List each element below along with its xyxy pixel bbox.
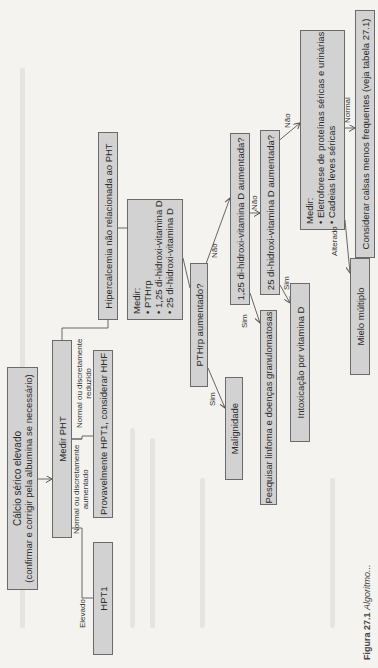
myeloma-label: Mielo múltiplo [355, 287, 366, 345]
consider-other-causes-node: Considerar calsas menos frequentes (veja… [355, 10, 375, 258]
d25-question-label: 25 di-hidroxi-vitamina D aumentada? [265, 135, 276, 290]
probable-hpt1-node: Provavelmente HPT1, considerar HHF [93, 350, 113, 518]
edge-label-normal: Normal [343, 97, 352, 123]
edge-label-pthrp-no: Não [210, 243, 219, 258]
edge-label-normal-high: Normal ou discretamente aumentado [72, 445, 90, 534]
edge-label-elevated: Elevado [78, 599, 87, 628]
lymphoma-node: Pesquisar linfoma e doenças granulomatos… [260, 310, 277, 505]
probable-hpt1-label: Provavelmente HPT1, considerar HHF [98, 353, 109, 515]
malignancy-node: Malignidade [225, 377, 243, 480]
edge-label-line: Normal ou discretamente [72, 445, 81, 534]
d125-question-label: 1,25 di-hidroxi-vitamina D aumentada? [235, 137, 246, 300]
measure-pthrp-node: Medir: PTHrp 1,25 di-hidroxi-vitamina D … [127, 199, 183, 320]
start-title: Cálcio sérico elevado [12, 431, 23, 526]
hpt1-node: HPT1 [93, 542, 113, 655]
edge-label-normal-low: Normal ou discretamente reduzido [75, 339, 93, 428]
edge-label-d125-no: Não [250, 195, 259, 210]
edge-label-altered: Alterado [330, 226, 339, 256]
vitd-intoxication-node: Intoxicação por vitamina D [290, 283, 310, 442]
vitd-intoxication-label: Intoxicação por vitamina D [295, 307, 306, 419]
edge-label-pthrp-yes: Sim [208, 392, 217, 406]
pthrp-question-label: PTHrp aumentado? [194, 284, 205, 367]
measure-pthrp-title: Medir: [131, 288, 142, 314]
list-item: Cadeias leves séricas [326, 32, 337, 224]
figure-label: Figura 27.1 [362, 612, 372, 660]
list-item: Eletroforese de proteínas séricas e urin… [315, 32, 326, 224]
measure-electro-list: Eletroforese de proteínas séricas e urin… [315, 32, 337, 224]
measure-electrophoresis-node: Medir: Eletroforese de proteínas séricas… [300, 30, 345, 230]
edge-label-d25-no: Não [283, 113, 292, 128]
malignancy-label: Malignidade [229, 403, 240, 454]
edge-label-line: reduzido [84, 339, 93, 428]
list-item: PTHrp [142, 200, 153, 314]
edge-label-d25-yes: Sim [282, 276, 291, 290]
measure-pht-node: Medir PHT [52, 340, 72, 538]
myeloma-node: Mielo múltiplo [350, 258, 370, 375]
start-subtitle: (confirmar e corrigir pela albumina se n… [23, 374, 34, 583]
d25-question-node: 25 di-hidroxi-vitamina D aumentada? [260, 130, 280, 295]
measure-pht-label: Medir PHT [57, 416, 68, 461]
measure-pthrp-list: PTHrp 1,25 di-hidroxi-vitamina D 25 di-h… [142, 200, 175, 314]
non-pht-hypercalcemia-node: Hipercalcemia não relacionada ao PHT [98, 132, 118, 320]
figure-caption: Figura 27.1 Algoritmo... [362, 564, 372, 660]
lymphoma-label: Pesquisar linfoma e doenças granulomatos… [263, 311, 274, 503]
measure-electro-title: Medir: [304, 198, 315, 224]
list-item: 1,25 di-hidroxi-vitamina D [153, 200, 164, 314]
hpt1-label: HPT1 [98, 586, 109, 610]
flowchart-rotated: Cálcio sérico elevado (confirmar e corri… [0, 0, 378, 668]
edge-label-d125-yes: Sim [240, 314, 249, 328]
non-pht-label: Hipercalcemia não relacionada ao PHT [103, 143, 114, 308]
edge-label-line: Normal ou discretamente [75, 339, 84, 428]
d125-question-node: 1,25 di-hidroxi-vitamina D aumentada? [230, 133, 250, 305]
edge-label-line: aumentado [81, 445, 90, 534]
list-item: 25 di-hidroxi-vitamina D [164, 200, 175, 314]
figure-caption-text: Algoritmo... [362, 564, 372, 610]
consider-other-label: Considerar calsas menos frequentes (veja… [360, 19, 371, 250]
start-node: Cálcio sérico elevado (confirmar e corri… [7, 367, 38, 590]
pthrp-question-node: PTHrp aumentado? [190, 263, 208, 387]
